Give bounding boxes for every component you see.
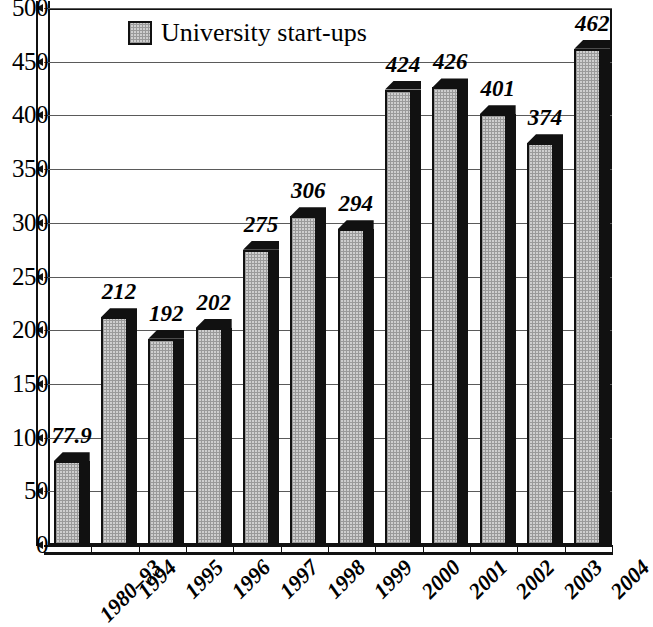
- x-axis-tick: [517, 545, 518, 555]
- bar-front-face: [196, 328, 223, 545]
- bar-value-label: 202: [179, 291, 249, 314]
- x-axis-tick: [186, 545, 187, 555]
- bar-side-face: [270, 250, 279, 545]
- bar-side-face: [507, 114, 516, 545]
- x-axis-tick: [612, 545, 613, 555]
- x-axis-tick: [139, 545, 140, 555]
- x-axis-tick-label: 1998: [323, 556, 370, 603]
- y-axis-tick-label: 350: [0, 156, 48, 181]
- bar-side-face: [81, 461, 90, 545]
- gridline: [44, 62, 612, 63]
- gridline: [44, 8, 612, 9]
- bar-value-label: 77.9: [37, 424, 107, 447]
- bar-side-face: [223, 328, 232, 545]
- bar-front-face: [148, 339, 175, 545]
- bar-side-face: [365, 229, 374, 545]
- bar-value-label: 374: [510, 106, 580, 129]
- bar-side-face: [317, 216, 326, 545]
- bar-value-label: 462: [557, 12, 627, 35]
- x-axis-tick-label: 1995: [181, 556, 228, 603]
- x-axis-tick: [565, 545, 566, 555]
- bar-front-face: [338, 229, 365, 545]
- bar: [432, 78, 468, 545]
- bar-top-face: [148, 330, 184, 339]
- bar-value-label: 294: [321, 192, 391, 215]
- bar-top-face: [54, 452, 90, 461]
- y-axis-tick-label: 250: [0, 264, 48, 289]
- bar-value-label: 275: [226, 213, 296, 236]
- bar-front-face: [527, 143, 554, 545]
- y-axis-tick-label: 450: [0, 49, 48, 74]
- x-axis-tick-label: 2002: [512, 556, 559, 603]
- y-axis-tick-label: 500: [0, 0, 48, 20]
- x-axis-tick: [233, 545, 234, 555]
- x-axis-tick-label: 2000: [418, 556, 465, 603]
- bar-side-face: [412, 90, 421, 545]
- x-axis-tick: [91, 545, 92, 555]
- bar-top-face: [527, 134, 563, 143]
- bar-top-face: [385, 81, 421, 90]
- bar-front-face: [54, 461, 81, 545]
- bar: [480, 105, 516, 545]
- chart-legend: University start-ups: [128, 20, 367, 46]
- bar: [338, 220, 374, 545]
- x-axis-tick: [281, 545, 282, 555]
- bar: [290, 207, 326, 545]
- bar-top-face: [574, 40, 610, 49]
- x-axis-tick-label: 1997: [276, 556, 323, 603]
- x-axis-tick-label: 2001: [465, 556, 512, 603]
- x-axis-tick-label: 2003: [560, 556, 607, 603]
- bar-side-face: [128, 317, 137, 545]
- bar-side-face: [459, 87, 468, 545]
- y-axis-tick-label: 150: [0, 371, 48, 396]
- bar-value-label: 212: [84, 280, 154, 303]
- bar-value-label: 401: [463, 77, 533, 100]
- bar-side-face: [175, 339, 184, 545]
- x-axis-tick: [328, 545, 329, 555]
- x-axis-tick: [375, 545, 376, 555]
- bar-top-face: [338, 220, 374, 229]
- x-axis-tick-label: 1996: [228, 556, 275, 603]
- x-axis-tick-label: 2004: [607, 556, 653, 603]
- y-axis-tick-label: 50: [0, 478, 48, 503]
- bar-front-face: [290, 216, 317, 545]
- bar: [54, 452, 90, 545]
- y-axis-tick-label: 400: [0, 102, 48, 127]
- legend-label: University start-ups: [161, 20, 367, 46]
- y-axis-tick-label: 0: [0, 532, 48, 557]
- y-axis-tick-label: 200: [0, 317, 48, 342]
- x-axis-tick: [423, 545, 424, 555]
- bar: [148, 330, 184, 545]
- bar-front-face: [480, 114, 507, 545]
- bar: [527, 134, 563, 545]
- x-axis-tick: [470, 545, 471, 555]
- bar-top-face: [243, 241, 279, 250]
- y-axis-tick-label: 300: [0, 210, 48, 235]
- bar-front-face: [385, 90, 412, 545]
- bar-side-face: [554, 143, 563, 545]
- bar: [385, 81, 421, 545]
- bar-side-face: [601, 49, 610, 545]
- x-axis-tick-label: 1999: [370, 556, 417, 603]
- bar-front-face: [432, 87, 459, 545]
- legend-swatch-icon: [128, 21, 152, 45]
- bar: [243, 241, 279, 545]
- bar-value-label: 426: [415, 50, 485, 73]
- bar: [196, 319, 232, 545]
